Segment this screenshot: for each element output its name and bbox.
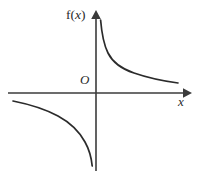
x-axis-label: x xyxy=(178,95,184,108)
curve-branch-quadrant-three xyxy=(13,101,92,166)
function-label-suffix: ) xyxy=(81,7,86,22)
x-axis-arrow-icon xyxy=(183,88,192,98)
plot-canvas xyxy=(0,0,201,179)
curve-branch-quadrant-one xyxy=(101,20,178,83)
function-axis-label: f(x) xyxy=(66,8,86,22)
y-axis-arrow-icon xyxy=(91,10,101,19)
hyperbola-figure: f(x) O x xyxy=(0,0,201,179)
origin-label: O xyxy=(80,73,89,86)
function-label-prefix: f( xyxy=(66,7,75,22)
